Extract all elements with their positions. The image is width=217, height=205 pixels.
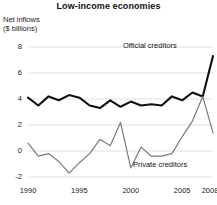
x-tick-label: 2008	[197, 186, 217, 195]
x-tick-label: 1990	[15, 186, 41, 195]
y-tick-label: 8	[8, 42, 22, 51]
y-tick-label: 4	[8, 94, 22, 103]
series-line-official-creditors	[28, 56, 213, 108]
y-tick-label: -2	[8, 172, 22, 181]
x-tick-label: 2000	[118, 186, 144, 195]
y-tick-label: 2	[8, 120, 22, 129]
y-tick-label: 0	[8, 146, 22, 155]
chart-figure: Low-income economies Net inflows ($ bill…	[0, 0, 217, 205]
series-lines	[28, 56, 213, 173]
annotation-official-creditors: Official creditors	[123, 41, 177, 50]
plot-area	[0, 0, 217, 205]
annotation-private-creditors: Private creditors	[133, 160, 187, 169]
x-tick-label: 1995	[66, 186, 92, 195]
gridlines	[28, 47, 213, 177]
y-tick-label: 6	[8, 68, 22, 77]
x-tick-label: 2005	[169, 186, 195, 195]
